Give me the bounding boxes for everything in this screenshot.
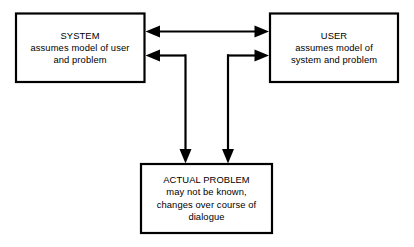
connector-problem-user [222, 50, 269, 164]
connector-problem-system [146, 50, 192, 164]
arrowhead-elbow-left-to-system [146, 50, 161, 62]
arrowhead-down-to-problem-right [222, 149, 234, 164]
diagram-canvas: SYSTEM assumes model of user and problem… [0, 0, 414, 247]
node-box-user [270, 14, 398, 83]
diagram-graphics [0, 0, 414, 247]
arrowhead-right-to-user [255, 26, 270, 38]
node-box-system [16, 14, 145, 83]
connector-system-user [146, 26, 270, 38]
node-box-actual-problem [141, 164, 272, 233]
arrowhead-elbow-right-to-user [255, 50, 270, 62]
arrowhead-left-to-system [146, 26, 161, 38]
arrowhead-down-to-problem-left [180, 149, 192, 164]
